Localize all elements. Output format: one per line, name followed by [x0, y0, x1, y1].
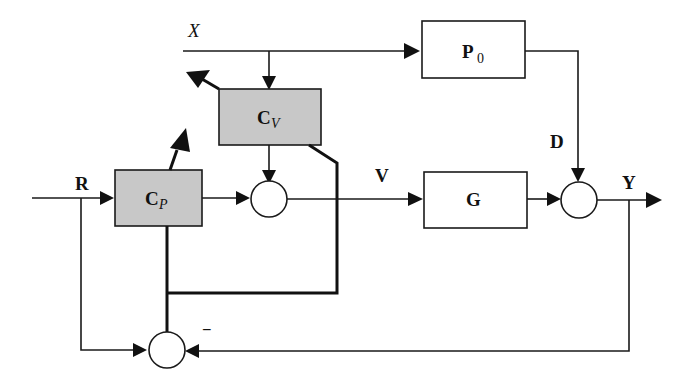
- label-d: D: [550, 131, 564, 152]
- summing-junction-bottom: [149, 332, 185, 368]
- signal-x-branch: [262, 51, 276, 90]
- block-p0-label: P: [462, 41, 474, 62]
- cv-output-line: [262, 145, 276, 184]
- block-diagram: P 0 C V C P: [0, 0, 680, 390]
- block-cv-sub: V: [271, 116, 281, 131]
- minus-sign: −: [202, 321, 211, 338]
- summing-junction-1: [251, 181, 287, 217]
- block-g: G: [424, 172, 527, 228]
- cp-output-line: [202, 191, 250, 205]
- block-g-label: G: [466, 189, 481, 210]
- block-p0: P 0: [422, 21, 525, 78]
- label-v: V: [375, 165, 389, 186]
- signal-x-line: [183, 43, 420, 59]
- block-cp: C P: [115, 170, 202, 226]
- signal-r-line: [32, 191, 114, 205]
- cv-tuning-arrow: [186, 70, 219, 89]
- block-cv-label: C: [257, 107, 271, 128]
- block-p0-sub: 0: [477, 51, 484, 66]
- label-r: R: [75, 173, 89, 194]
- cp-tuning-arrow: [170, 128, 190, 170]
- block-cp-label: C: [145, 188, 159, 209]
- feedback-y-line: [185, 200, 629, 358]
- label-y: Y: [622, 172, 636, 193]
- summing-junction-2: [561, 182, 597, 218]
- signal-d-line: [525, 51, 585, 182]
- block-cp-sub: P: [158, 197, 168, 212]
- g-output-line: [527, 192, 561, 206]
- label-x: X: [187, 20, 201, 41]
- signal-v-line: [287, 192, 423, 206]
- block-cv: C V: [219, 89, 321, 145]
